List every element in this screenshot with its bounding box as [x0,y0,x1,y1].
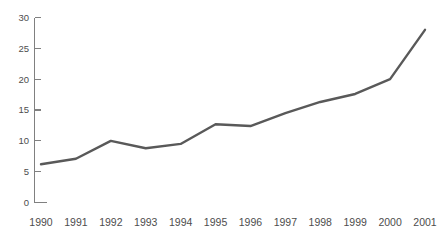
x-tick-label: 1998 [309,216,333,228]
x-tick-label: 2001 [413,216,437,228]
data-series-line [41,30,425,164]
y-tick-label: 20 [18,74,29,85]
y-tick-label: 0 [24,197,29,208]
x-tick-label: 1991 [64,216,88,228]
y-tick-label: 25 [18,43,29,54]
x-tick-label: 1999 [344,216,368,228]
line-chart: 051015202530 199019911992199319941995199… [0,0,438,236]
y-tick-label: 30 [18,12,29,23]
plot-area [41,30,425,164]
chart-canvas: 051015202530 199019911992199319941995199… [0,0,438,236]
x-tick-label: 1990 [29,216,53,228]
y-tick-label: 10 [18,135,29,146]
x-axis: 1990199119921993199419951996199719981999… [29,203,437,229]
y-tick-label: 15 [18,104,29,115]
x-tick-label: 1994 [169,216,193,228]
x-tick-label: 1995 [204,216,228,228]
x-tick-label: 2000 [378,216,402,228]
x-tick-label: 1996 [239,216,263,228]
x-tick-label: 1997 [274,216,298,228]
y-axis: 051015202530 [18,12,40,208]
x-tick-label: 1992 [99,216,123,228]
y-tick-label: 5 [24,166,29,177]
x-tick-label: 1993 [134,216,158,228]
